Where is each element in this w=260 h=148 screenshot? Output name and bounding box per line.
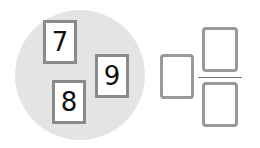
- digit-card-9[interactable]: 9: [95, 54, 129, 98]
- whole-number-box[interactable]: [160, 54, 194, 99]
- denominator-box[interactable]: [202, 82, 238, 127]
- digit-card-7[interactable]: 7: [43, 20, 77, 64]
- numerator-box[interactable]: [202, 27, 238, 72]
- fraction-bar: [198, 77, 242, 78]
- digit-label: 7: [52, 27, 69, 57]
- digit-card-8[interactable]: 8: [52, 80, 86, 124]
- digit-label: 9: [104, 61, 121, 91]
- digit-label: 8: [61, 87, 78, 117]
